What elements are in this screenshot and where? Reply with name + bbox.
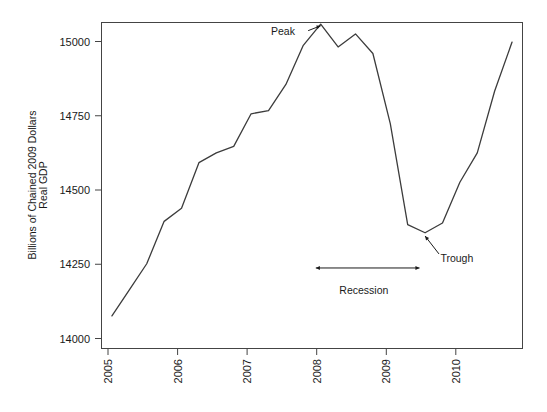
y-axis-title-line1: Real GDP — [37, 161, 49, 208]
peak-label: Peak — [271, 25, 296, 37]
x-tick-label-2009: 2009 — [380, 359, 392, 383]
y-axis-title-line2: Billions of Chained 2009 Dollars — [26, 111, 38, 260]
trough-label: Trough — [440, 252, 473, 264]
x-tick-label-2005: 2005 — [102, 359, 114, 383]
x-tick-label-2008: 2008 — [311, 359, 323, 383]
y-tick-label-14250: 14250 — [59, 258, 90, 270]
gdp-recession-line-chart: 15000 14750 14500 14250 14000 Real GDP B… — [0, 0, 547, 412]
x-tick-label-2010: 2010 — [450, 359, 462, 383]
y-tick-label-14000: 14000 — [59, 333, 90, 345]
x-tick-label-2006: 2006 — [172, 359, 184, 383]
chart-page: 15000 14750 14500 14250 14000 Real GDP B… — [0, 0, 547, 412]
y-tick-label-15000: 15000 — [59, 36, 90, 48]
y-tick-label-14500: 14500 — [59, 184, 90, 196]
chart-background — [0, 0, 547, 412]
x-tick-label-2007: 2007 — [241, 359, 253, 383]
recession-label: Recession — [339, 284, 388, 296]
y-tick-label-14750: 14750 — [59, 110, 90, 122]
